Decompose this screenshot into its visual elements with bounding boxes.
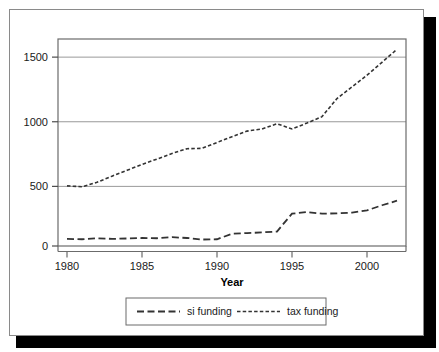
figure-root: 1500 1000 500 0 1980 1985 1990 1995 2000 bbox=[0, 0, 439, 352]
x-tick-label-1985: 1985 bbox=[130, 260, 154, 272]
legend[interactable]: si funding tax funding bbox=[126, 298, 339, 325]
y-tick-label-1500: 1500 bbox=[24, 51, 48, 63]
x-axis-title: Year bbox=[220, 276, 244, 288]
x-tick-label-1980: 1980 bbox=[55, 260, 79, 272]
x-tick-label-2000: 2000 bbox=[355, 260, 379, 272]
legend-label-tax-funding[interactable]: tax funding bbox=[287, 305, 339, 317]
figure-frame: 1500 1000 500 0 1980 1985 1990 1995 2000 bbox=[9, 9, 424, 336]
y-axis-ticks bbox=[52, 57, 58, 246]
y-tick-label-500: 500 bbox=[30, 180, 48, 192]
plot-area-background bbox=[58, 39, 406, 246]
x-tick-label-1995: 1995 bbox=[280, 260, 304, 272]
line-chart: 1500 1000 500 0 1980 1985 1990 1995 2000 bbox=[10, 10, 423, 335]
y-tick-label-1000: 1000 bbox=[24, 116, 48, 128]
x-axis-ticks bbox=[67, 252, 367, 258]
legend-label-si-funding[interactable]: si funding bbox=[187, 305, 232, 317]
x-tick-label-1990: 1990 bbox=[205, 260, 229, 272]
y-tick-label-0: 0 bbox=[42, 240, 48, 252]
